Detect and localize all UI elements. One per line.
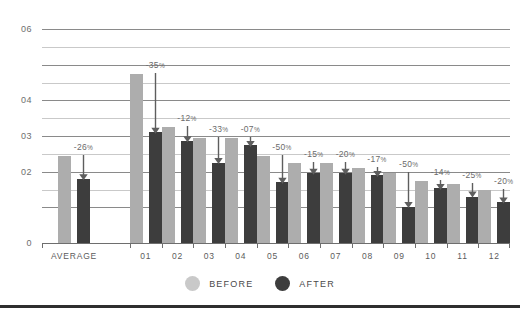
legend-swatch-before-icon <box>185 276 200 291</box>
y-axis-tick-label: 04 <box>4 95 32 105</box>
x-axis-tick <box>415 243 416 248</box>
y-axis-tick-label: 03 <box>4 131 32 141</box>
x-axis-tick <box>509 243 510 248</box>
delta-percentage-label: -35% <box>146 60 165 70</box>
x-axis-tick-label: 12 <box>489 251 500 261</box>
bar-after <box>276 182 289 243</box>
x-axis-tick-label: 10 <box>425 251 436 261</box>
bar-group <box>352 14 384 243</box>
x-axis-tick-label: 04 <box>235 251 246 261</box>
x-axis-tick-label: 03 <box>204 251 215 261</box>
decrease-arrow-icon <box>307 162 320 175</box>
x-axis-tick-label: 08 <box>362 251 373 261</box>
bar-before <box>352 168 365 243</box>
delta-percentage-label: -26% <box>74 142 93 152</box>
decrease-arrow-icon <box>402 172 415 208</box>
decrease-arrow-icon <box>149 73 162 134</box>
x-axis-tick-label: 05 <box>267 251 278 261</box>
decrease-arrow-icon <box>181 126 194 142</box>
x-axis-tick-label: 01 <box>140 251 151 261</box>
x-axis-tick <box>383 243 384 248</box>
decrease-arrow-icon <box>212 137 225 164</box>
bar-after <box>181 141 194 243</box>
y-axis-tick-label: 06 <box>4 24 32 34</box>
bars-area <box>42 14 510 243</box>
x-axis-tick <box>162 243 163 248</box>
x-axis-tick-label: 09 <box>394 251 405 261</box>
bar-before <box>130 74 143 243</box>
bar-after <box>212 163 225 243</box>
bar-group <box>320 14 352 243</box>
bar-before <box>193 138 206 243</box>
decrease-arrow-icon <box>371 167 384 177</box>
x-axis-tick <box>193 243 194 248</box>
delta-percentage-label: -50% <box>272 142 291 152</box>
delta-percentage-label: -20% <box>336 149 355 159</box>
x-axis-tick <box>320 243 321 248</box>
bar-after <box>244 145 257 243</box>
decrease-arrow-icon <box>77 155 90 180</box>
y-axis-tick-label: 0 <box>4 238 32 248</box>
bar-after <box>497 202 510 243</box>
x-axis-tick <box>130 243 131 248</box>
delta-percentage-label: -07% <box>241 124 260 134</box>
x-axis-tick <box>42 243 43 248</box>
x-axis-tick-label: AVERAGE <box>51 251 97 261</box>
bar-after <box>371 175 384 243</box>
x-axis-tick <box>447 243 448 248</box>
bar-group <box>447 14 479 243</box>
bar-before <box>257 156 270 243</box>
bar-before <box>447 184 460 243</box>
bar-after <box>149 132 162 243</box>
delta-percentage-label: -12% <box>177 113 196 123</box>
bar-before <box>478 190 491 244</box>
bar-after <box>77 179 90 243</box>
delta-percentage-label: -20% <box>494 176 513 186</box>
bar-group <box>415 14 447 243</box>
decrease-arrow-icon <box>497 189 510 203</box>
bar-group <box>478 14 510 243</box>
x-axis-tick <box>257 243 258 248</box>
delta-percentage-label: -33% <box>209 124 228 134</box>
x-axis-tick <box>225 243 226 248</box>
x-axis-tick-label: 11 <box>457 251 467 261</box>
bar-before <box>320 163 333 243</box>
bar-group <box>383 14 415 243</box>
delta-percentage-label: -17% <box>367 154 386 164</box>
x-axis-tick-label: 02 <box>172 251 183 261</box>
x-axis-tick-label: 06 <box>299 251 310 261</box>
legend-item-after[interactable]: AFTER <box>275 276 335 291</box>
x-axis-tick <box>352 243 353 248</box>
bar-group <box>288 14 320 243</box>
delta-percentage-label: -25% <box>462 170 481 180</box>
bar-chart: 060403020 AVERAGE01020304050607080910111… <box>0 0 520 319</box>
bar-before <box>415 181 428 243</box>
legend-swatch-after-icon <box>275 276 290 291</box>
bar-before <box>58 156 71 243</box>
decrease-arrow-icon <box>466 183 479 197</box>
decrease-arrow-icon <box>244 137 257 147</box>
x-axis-tick <box>288 243 289 248</box>
chart-legend: BEFOREAFTER <box>0 276 520 291</box>
decrease-arrow-icon <box>339 162 352 175</box>
bar-before <box>162 127 175 243</box>
bar-after <box>466 197 479 243</box>
bar-after <box>339 173 352 243</box>
decrease-arrow-icon <box>434 180 447 190</box>
y-axis-tick-label: 02 <box>4 167 32 177</box>
legend-item-before[interactable]: BEFORE <box>185 276 253 291</box>
bar-before <box>288 163 301 243</box>
bar-after <box>434 188 447 243</box>
bar-after <box>402 207 415 243</box>
delta-percentage-label: -15% <box>304 149 323 159</box>
bar-group <box>58 14 90 243</box>
bar-group <box>257 14 289 243</box>
delta-percentage-label: -14% <box>431 167 450 177</box>
decrease-arrow-icon <box>276 155 289 184</box>
bar-after <box>307 173 320 243</box>
x-axis-tick-label: 07 <box>330 251 341 261</box>
delta-percentage-label: -50% <box>399 159 418 169</box>
legend-label: BEFORE <box>209 279 253 289</box>
x-axis-line <box>42 243 510 244</box>
bar-before <box>225 138 238 243</box>
